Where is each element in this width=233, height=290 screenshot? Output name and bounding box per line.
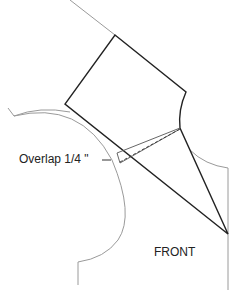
front-label: FRONT	[154, 245, 195, 259]
pattern-diagram	[0, 0, 233, 290]
overlap-label: Overlap 1/4 "	[19, 152, 89, 166]
yoke-outline	[65, 35, 228, 234]
overlap-strip	[117, 128, 180, 163]
shoulder-guide-line	[70, 0, 115, 35]
